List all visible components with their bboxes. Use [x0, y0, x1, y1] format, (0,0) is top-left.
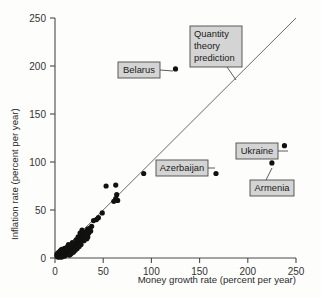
- y-tick-label: 50: [35, 205, 47, 216]
- x-axis-title: Money growth rate (percent per year): [138, 274, 296, 285]
- quantity-theory-label-line-3: prediction: [194, 52, 235, 63]
- y-tick-label: 0: [40, 253, 46, 264]
- y-tick-label: 150: [29, 109, 46, 120]
- data-point: [111, 199, 116, 204]
- y-axis-tick-labels: 050100150200250: [29, 13, 46, 264]
- x-axis-ticks: [55, 258, 296, 263]
- data-point: [54, 253, 59, 258]
- data-point: [79, 228, 84, 233]
- data-point: [100, 210, 105, 215]
- callout-ukraine: Ukraine: [236, 143, 278, 159]
- armenia-leader-line: [266, 168, 272, 180]
- y-tick-label: 200: [29, 61, 46, 72]
- callout-quantity-theory: Quantity theory prediction: [190, 26, 242, 67]
- data-point: [88, 229, 93, 234]
- y-axis-title: Inflation rate (percent per year): [9, 108, 20, 240]
- belarus-leader-line: [160, 70, 173, 71]
- data-point: [269, 160, 274, 165]
- ukraine-callout-label: Ukraine: [241, 145, 273, 156]
- azerbaijan-callout-label: Azerbaijan: [160, 162, 204, 173]
- quantity-theory-prediction-line: [55, 18, 296, 258]
- callout-armenia: Armenia: [250, 180, 294, 196]
- y-tick-label: 250: [29, 13, 46, 24]
- x-tick-label: 0: [52, 266, 58, 277]
- data-point: [141, 171, 146, 176]
- scatter-chart-figure: 050100150200250 050100150200250 Belarus …: [0, 0, 321, 297]
- chart-svg: 050100150200250 050100150200250 Belarus …: [0, 0, 321, 297]
- belarus-callout-label: Belarus: [123, 64, 155, 75]
- data-point: [282, 143, 287, 148]
- y-tick-label: 100: [29, 157, 46, 168]
- data-point: [213, 171, 218, 176]
- data-point: [103, 183, 108, 188]
- data-point: [113, 182, 118, 187]
- data-point: [173, 66, 178, 71]
- quantity-theory-label-line-1: Quantity: [194, 28, 229, 39]
- armenia-callout-label: Armenia: [255, 182, 291, 193]
- callout-azerbaijan: Azerbaijan: [156, 160, 208, 176]
- quantity-theory-leader-line: [227, 67, 236, 80]
- quantity-theory-label-line-2: theory: [194, 40, 220, 51]
- data-point: [81, 238, 86, 243]
- callout-belarus: Belarus: [118, 62, 160, 78]
- data-point: [91, 218, 96, 223]
- y-axis-ticks: [50, 18, 55, 258]
- x-tick-label: 50: [98, 266, 110, 277]
